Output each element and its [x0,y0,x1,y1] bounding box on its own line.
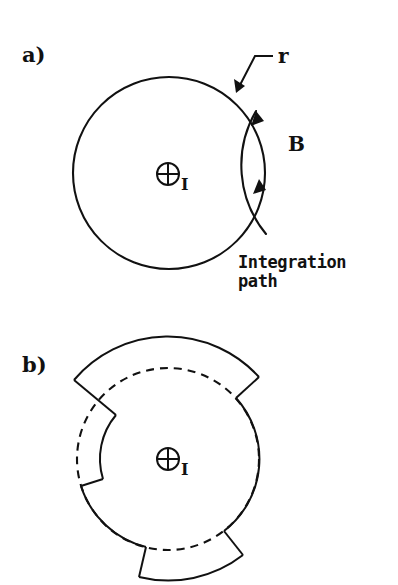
step-radial-neg104deg [139,547,146,577]
step-radial-neg163deg [81,479,103,486]
step-radial-42deg [236,377,259,398]
figure-root: a) I r B Integr [0,0,398,585]
radius-leader-a [234,56,273,93]
step-radial-neg52deg [224,531,243,555]
integration-path-label-line1: Integration [238,252,346,272]
panel-b: b) [22,337,259,581]
radius-label-r: r [278,44,289,68]
segment-outer-top-arc [74,337,259,380]
segment-mid-right-arc [224,398,259,531]
step-radial-140deg [74,380,116,415]
current-out-of-page-icon-b [157,448,179,470]
integration-path-label-line2: path [238,271,277,291]
segment-mid-bottom-arc [81,486,146,547]
segment-inner-left-arc [100,415,116,479]
field-label-B: B [288,132,305,156]
radius-leader-arrowhead [234,79,245,93]
panel-a-label: a) [22,42,46,67]
current-out-of-page-icon-a [157,163,179,185]
current-label-b: I [181,460,188,479]
panel-a: a) I r B Integr [22,42,346,291]
segment-outer-lower-right-arc [139,555,243,581]
current-label-a: I [181,175,188,194]
figure-canvas: a) I r B Integr [0,0,398,585]
panel-b-label: b) [22,352,47,377]
